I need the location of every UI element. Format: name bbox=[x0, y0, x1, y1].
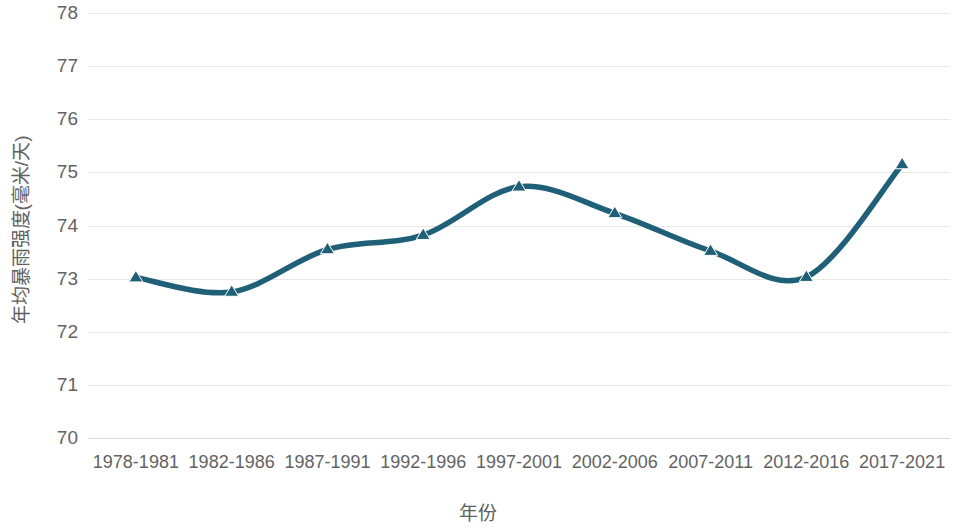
y-tick-label: 72 bbox=[0, 321, 78, 343]
y-axis-tick-labels: 787776757473727170 bbox=[0, 0, 78, 531]
line-chart: 年均暴雨强度(毫米/天) 787776757473727170 1978-198… bbox=[0, 0, 956, 531]
x-axis-tick-labels: 1978-19811982-19861987-19911992-19961997… bbox=[88, 452, 950, 482]
x-tick-label: 2007-2011 bbox=[668, 452, 753, 473]
x-tick-label: 1992-1996 bbox=[380, 452, 466, 473]
x-tick-label: 2017-2021 bbox=[859, 452, 945, 473]
y-tick-label: 76 bbox=[0, 108, 78, 130]
y-tick-label: 73 bbox=[0, 268, 78, 290]
x-tick-label: 2012-2016 bbox=[763, 452, 849, 473]
data-point-marker bbox=[895, 157, 909, 169]
x-tick-label: 1978-1981 bbox=[93, 452, 179, 473]
x-tick-label: 1987-1991 bbox=[284, 452, 370, 473]
plot-area bbox=[88, 13, 950, 438]
series-group bbox=[88, 13, 950, 438]
y-tick-label: 74 bbox=[0, 215, 78, 237]
y-tick-label: 78 bbox=[0, 2, 78, 24]
y-tick-label: 77 bbox=[0, 55, 78, 77]
x-axis-title: 年份 bbox=[0, 498, 956, 525]
x-tick-label: 2002-2006 bbox=[572, 452, 658, 473]
gridline bbox=[88, 438, 950, 439]
y-tick-label: 75 bbox=[0, 161, 78, 183]
x-tick-label: 1997-2001 bbox=[476, 452, 562, 473]
y-tick-label: 71 bbox=[0, 374, 78, 396]
x-tick-label: 1982-1986 bbox=[189, 452, 275, 473]
y-tick-label: 70 bbox=[0, 427, 78, 449]
